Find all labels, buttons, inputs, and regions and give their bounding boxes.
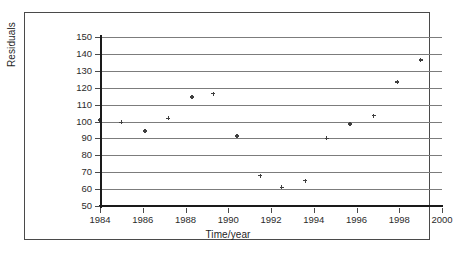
plot-area	[100, 37, 442, 206]
y-axis-tick	[95, 54, 100, 55]
chart-frame: 5060708090100110120130140150 19841986198…	[24, 12, 430, 240]
y-axis-title: Residuals	[6, 22, 17, 67]
x-axis-tick-label: 1994	[296, 215, 332, 225]
x-axis-tick	[100, 208, 101, 213]
data-point-marker	[119, 120, 123, 124]
x-axis-tick-label: 1996	[339, 215, 375, 225]
y-axis-tick-label: 140	[56, 49, 92, 59]
data-point-marker	[419, 58, 423, 62]
data-point-marker	[166, 116, 170, 120]
x-axis-tick	[314, 208, 315, 213]
x-axis-tick	[228, 208, 229, 213]
gridline	[100, 122, 442, 123]
data-point-marker	[372, 114, 376, 118]
data-point-marker	[190, 95, 194, 99]
y-axis-tick-label: 90	[56, 133, 92, 143]
y-axis-tick	[95, 105, 100, 106]
data-point-marker	[235, 134, 239, 138]
gridline	[100, 105, 442, 106]
x-axis-tick	[143, 208, 144, 213]
y-axis-tick	[95, 71, 100, 72]
y-axis-tick-label: 70	[56, 167, 92, 177]
x-axis-tick-label: 2000	[424, 215, 454, 225]
gridline	[100, 71, 442, 72]
y-axis-tick-label: 50	[56, 201, 92, 211]
data-point-marker	[280, 185, 284, 189]
x-axis-line	[99, 205, 443, 207]
data-point-marker	[258, 174, 262, 178]
data-point-marker	[143, 129, 147, 133]
x-axis-tick	[399, 208, 400, 213]
gridline	[100, 155, 442, 156]
scatter-chart-figure: 5060708090100110120130140150 19841986198…	[0, 0, 454, 253]
gridline	[100, 189, 442, 190]
x-axis-tick-label: 1988	[168, 215, 204, 225]
x-axis-tick-label: 1990	[210, 215, 246, 225]
y-axis-tick-label: 120	[56, 83, 92, 93]
data-point-marker	[303, 179, 307, 183]
gridline	[100, 138, 442, 139]
y-axis-tick	[95, 172, 100, 173]
gridline	[100, 37, 442, 38]
x-axis-tick	[186, 208, 187, 213]
y-axis-tick	[95, 37, 100, 38]
y-axis-tick-label: 150	[56, 32, 92, 42]
y-axis-tick	[95, 122, 100, 123]
y-axis-tick-label: 110	[56, 100, 92, 110]
gridline	[100, 54, 442, 55]
data-point-marker	[325, 136, 329, 140]
x-axis-tick-label: 1986	[125, 215, 161, 225]
data-point-marker	[348, 122, 352, 126]
y-axis-tick	[95, 155, 100, 156]
y-axis-line	[100, 35, 102, 208]
y-axis-tick-label: 100	[56, 117, 92, 127]
y-axis-tick-label: 80	[56, 150, 92, 160]
gridline	[100, 88, 442, 89]
y-axis-tick-label: 60	[56, 184, 92, 194]
x-axis-title: Time/year	[25, 229, 431, 240]
y-axis-tick-label: 130	[56, 66, 92, 76]
x-axis-tick-label: 1984	[82, 215, 118, 225]
y-axis-tick	[95, 206, 100, 207]
x-axis-tick	[357, 208, 358, 213]
x-axis-tick	[271, 208, 272, 213]
x-axis-tick	[442, 208, 443, 213]
x-axis-tick-label: 1992	[253, 215, 289, 225]
data-point-marker	[211, 92, 215, 96]
x-axis-tick-label: 1998	[381, 215, 417, 225]
data-point-marker	[395, 80, 399, 84]
y-axis-tick	[95, 189, 100, 190]
y-axis-tick	[95, 88, 100, 89]
y-axis-tick	[95, 138, 100, 139]
gridline	[100, 172, 442, 173]
